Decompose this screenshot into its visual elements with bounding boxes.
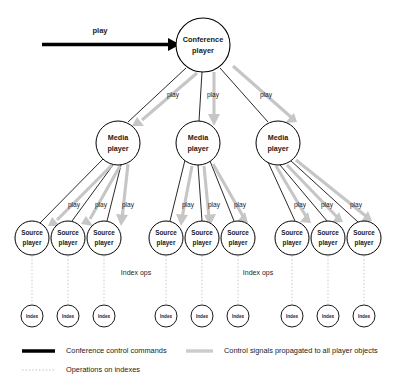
source-to-index-dotted-edges xyxy=(32,256,364,304)
index-label-5: Index xyxy=(232,314,244,319)
source-player-label-1-line2: player xyxy=(59,239,78,247)
node-media-player-2[interactable]: Media player xyxy=(256,121,300,165)
index-label-0: Index xyxy=(26,314,38,319)
index-label-2: Index xyxy=(98,314,110,319)
play-label-root-1: play xyxy=(207,91,220,99)
node-source-player-3[interactable]: Source player xyxy=(149,221,183,255)
legend-label-operations-on-indexes: Operations on indexes xyxy=(66,365,140,374)
source-player-label-7-line2: player xyxy=(319,239,338,247)
control-signal-media2-source2 xyxy=(296,160,367,217)
media-player-label-1-line2: player xyxy=(187,144,208,153)
index-ops-label-1: Index ops xyxy=(243,269,274,277)
play-label-source-3: play xyxy=(182,201,195,209)
node-index-2[interactable]: Index xyxy=(93,305,115,327)
source-player-label-6-line1: Source xyxy=(281,229,303,236)
source-player-label-0-line2: player xyxy=(23,239,42,247)
play-label-source-6: play xyxy=(294,201,307,209)
node-index-0[interactable]: Index xyxy=(21,305,43,327)
node-media-player-1[interactable]: Media player xyxy=(176,121,220,165)
legend-label-control-signals: Control signals propagated to all player… xyxy=(224,346,378,355)
control-signal-arrowhead-m1s0 xyxy=(176,214,188,226)
play-label-source-7: play xyxy=(321,201,334,209)
node-source-player-8[interactable]: Source player xyxy=(347,221,381,255)
media-player-label-1-line1: Media xyxy=(188,133,209,142)
node-conference-player[interactable]: Conference player xyxy=(176,18,230,72)
source-player-label-8-line2: player xyxy=(355,239,374,247)
command-arrow-label: play xyxy=(92,26,108,35)
node-source-player-4[interactable]: Source player xyxy=(185,221,219,255)
source-player-label-7-line1: Source xyxy=(317,229,339,236)
play-label-source-2: play xyxy=(122,201,135,209)
media-player-label-2-line1: Media xyxy=(268,133,289,142)
node-index-1[interactable]: Index xyxy=(57,305,79,327)
edge-media2-source2 xyxy=(290,160,358,222)
source-player-label-0-line1: Source xyxy=(21,229,43,236)
conference-player-label-line2: player xyxy=(192,46,214,55)
source-player-label-3-line2: player xyxy=(157,239,176,247)
play-label-source-5: play xyxy=(234,201,247,209)
node-source-player-2[interactable]: Source player xyxy=(87,221,121,255)
control-signal-media1-source1 xyxy=(204,166,209,218)
play-label-source-8: play xyxy=(350,201,363,209)
node-source-player-5[interactable]: Source player xyxy=(221,221,255,255)
source-player-label-4-line1: Source xyxy=(191,229,213,236)
edge-media1-source1 xyxy=(198,165,202,221)
node-index-4[interactable]: Index xyxy=(191,305,213,327)
control-signal-arrowhead-m0s2 xyxy=(116,214,128,226)
index-ops-label-0: Index ops xyxy=(121,269,152,277)
control-signal-media0-source2 xyxy=(122,164,128,219)
media-player-label-2-line2: player xyxy=(267,144,288,153)
node-source-player-1[interactable]: Source player xyxy=(51,221,85,255)
index-label-3: Index xyxy=(160,314,172,319)
edge-media0-source2 xyxy=(107,165,121,221)
source-player-label-5-line1: Source xyxy=(227,229,249,236)
node-index-7[interactable]: Index xyxy=(317,305,339,327)
legend: Conference control commands Operations o… xyxy=(22,346,378,374)
index-label-1: Index xyxy=(62,314,74,319)
source-player-label-3-line1: Source xyxy=(155,229,177,236)
edge-root-media-1 xyxy=(199,72,202,121)
source-player-label-6-line2: player xyxy=(283,239,302,247)
node-index-8[interactable]: Index xyxy=(353,305,375,327)
edge-media1-source2 xyxy=(210,161,234,221)
index-label-6: Index xyxy=(286,314,298,319)
node-index-5[interactable]: Index xyxy=(227,305,249,327)
source-player-label-4-line2: player xyxy=(193,239,212,247)
node-index-3[interactable]: Index xyxy=(155,305,177,327)
conference-control-command-arrow: play xyxy=(42,26,180,52)
legend-label-conference-control-commands: Conference control commands xyxy=(66,346,167,355)
index-ops-labels: Index ops Index ops xyxy=(121,269,274,277)
play-label-root-0: play xyxy=(167,91,180,99)
source-player-label-8-line1: Source xyxy=(353,229,375,236)
root-edge-play-labels: play play play xyxy=(167,91,273,99)
media-player-label-0-line2: player xyxy=(107,144,128,153)
node-source-player-7[interactable]: Source player xyxy=(311,221,345,255)
play-label-source-1: play xyxy=(95,201,108,209)
control-signal-media1-source0 xyxy=(182,166,192,218)
index-label-4: Index xyxy=(196,314,208,319)
play-label-source-0: play xyxy=(68,201,81,209)
index-label-8: Index xyxy=(358,314,370,319)
index-label-7: Index xyxy=(322,314,334,319)
media-player-label-0-line1: Media xyxy=(108,133,129,142)
play-label-root-2: play xyxy=(260,91,273,99)
node-source-player-6[interactable]: Source player xyxy=(275,221,309,255)
source-player-label-2-line1: Source xyxy=(93,229,115,236)
play-label-source-4: play xyxy=(208,201,221,209)
source-player-label-1-line1: Source xyxy=(57,229,79,236)
control-signal-media1-source2 xyxy=(213,164,244,218)
conference-player-label-line1: Conference xyxy=(183,35,224,44)
node-media-player-0[interactable]: Media player xyxy=(96,121,140,165)
conference-player-tree-diagram: play play play play xyxy=(0,0,394,388)
node-source-player-0[interactable]: Source player xyxy=(15,221,49,255)
source-player-label-5-line2: player xyxy=(229,239,248,247)
node-index-6[interactable]: Index xyxy=(281,305,303,327)
source-player-label-2-line2: player xyxy=(95,239,114,247)
diagram-canvas: play play play play xyxy=(0,0,394,388)
